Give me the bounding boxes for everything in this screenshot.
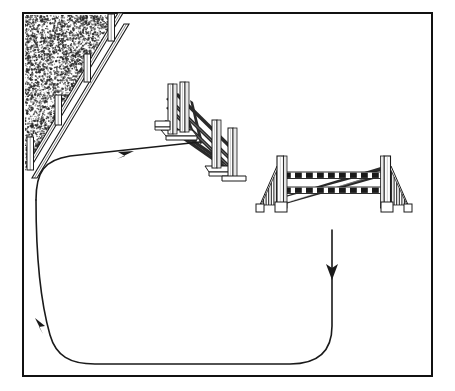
jump2-rail-lower: [281, 187, 386, 194]
jump2-rail-upper: [281, 172, 386, 179]
fence-post: [108, 14, 115, 41]
course-diagram-stage: [0, 0, 455, 391]
fence-post: [27, 137, 34, 170]
fence-post: [84, 54, 91, 82]
course-diagram-svg: [0, 0, 455, 391]
fence-post: [55, 95, 62, 125]
